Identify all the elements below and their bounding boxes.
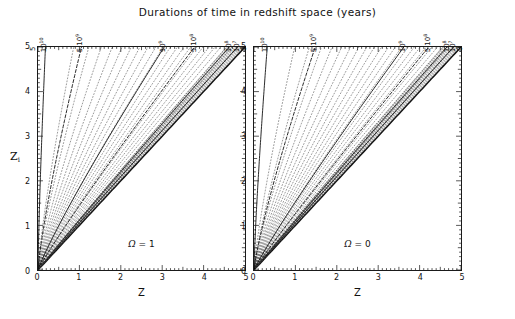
top-axis-tick-label: 5·108 xyxy=(189,34,198,53)
plot-frame-left xyxy=(37,46,246,271)
y-axis-title-sub: i xyxy=(18,156,20,164)
top-axis-tick-label: 5·108 xyxy=(423,34,432,53)
y-tick-label: 1 xyxy=(25,222,30,231)
y-axis-title: Zi xyxy=(10,150,20,164)
top-axis-tick-label: 0 xyxy=(456,47,464,51)
panel-omega-1: Ω = 1 012345 012345 510105·1091095·10810… xyxy=(37,46,246,271)
figure-title: Durations of time in redshift space (yea… xyxy=(0,6,515,18)
x-axis-title-right: Z xyxy=(253,287,462,298)
top-axis-tick-label: 109 xyxy=(158,40,167,52)
y-tick-label: 5 xyxy=(241,42,246,51)
x-axis-title-left: Z xyxy=(37,287,246,298)
x-tick-label: 3 xyxy=(160,273,165,282)
y-tick-label: 0 xyxy=(241,267,246,276)
top-axis-tick-label: 109 xyxy=(398,40,407,52)
top-axis-tick-label: 5·109 xyxy=(309,34,318,53)
x-tick-label: 1 xyxy=(292,273,297,282)
y-tick-label: 1 xyxy=(241,222,246,231)
top-axis-tick-label: 1010 xyxy=(38,37,47,52)
x-tick-label: 3 xyxy=(376,273,381,282)
y-tick-label: 4 xyxy=(241,87,246,96)
x-tick-label: 4 xyxy=(418,273,423,282)
y-tick-label: 0 xyxy=(25,267,30,276)
omega-annotation-left: Ω = 1 xyxy=(128,239,154,249)
y-axis-title-main: Z xyxy=(10,150,18,163)
panel-omega-0: Ω = 0 012345 012345 10105·1091095·108108… xyxy=(253,46,462,271)
plot-curves-right xyxy=(254,47,461,270)
plot-curves-left xyxy=(38,47,245,270)
y-tick-label: 4 xyxy=(25,87,30,96)
x-tick-label: 5 xyxy=(459,273,464,282)
x-tick-label: 2 xyxy=(334,273,339,282)
x-tick-label: 0 xyxy=(250,273,255,282)
top-axis-tick-label: 5·109 xyxy=(75,34,84,53)
omega-value-left: = 1 xyxy=(139,239,155,249)
figure-root: Durations of time in redshift space (yea… xyxy=(0,0,515,319)
omega-symbol-left: Ω xyxy=(128,239,135,249)
top-axis-tick-label: 1010 xyxy=(260,37,269,52)
y-tick-label: 3 xyxy=(241,132,246,141)
omega-symbol-right: Ω xyxy=(344,239,351,249)
plot-frame-right xyxy=(253,46,462,271)
y-tick-label: 2 xyxy=(241,177,246,186)
x-tick-label: 4 xyxy=(202,273,207,282)
x-tick-label: 1 xyxy=(76,273,81,282)
x-tick-label: 0 xyxy=(34,273,39,282)
x-tick-label: 2 xyxy=(118,273,123,282)
omega-value-right: = 0 xyxy=(355,239,371,249)
y-tick-label: 2 xyxy=(25,177,30,186)
top-axis-tick-label: 5 xyxy=(29,47,37,51)
omega-annotation-right: Ω = 0 xyxy=(344,239,370,249)
y-tick-label: 3 xyxy=(25,132,30,141)
